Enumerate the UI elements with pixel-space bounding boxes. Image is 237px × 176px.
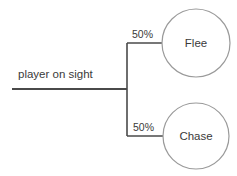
outcome-label-flee: Flee bbox=[185, 37, 207, 49]
outcome-label-chase: Chase bbox=[179, 130, 212, 142]
decision-diagram: player on sight 50% Flee 50% Chase bbox=[0, 0, 237, 176]
branch-probability-flee: 50% bbox=[132, 28, 153, 40]
branch-probability-chase: 50% bbox=[133, 121, 154, 133]
root-label: player on sight bbox=[18, 68, 94, 80]
